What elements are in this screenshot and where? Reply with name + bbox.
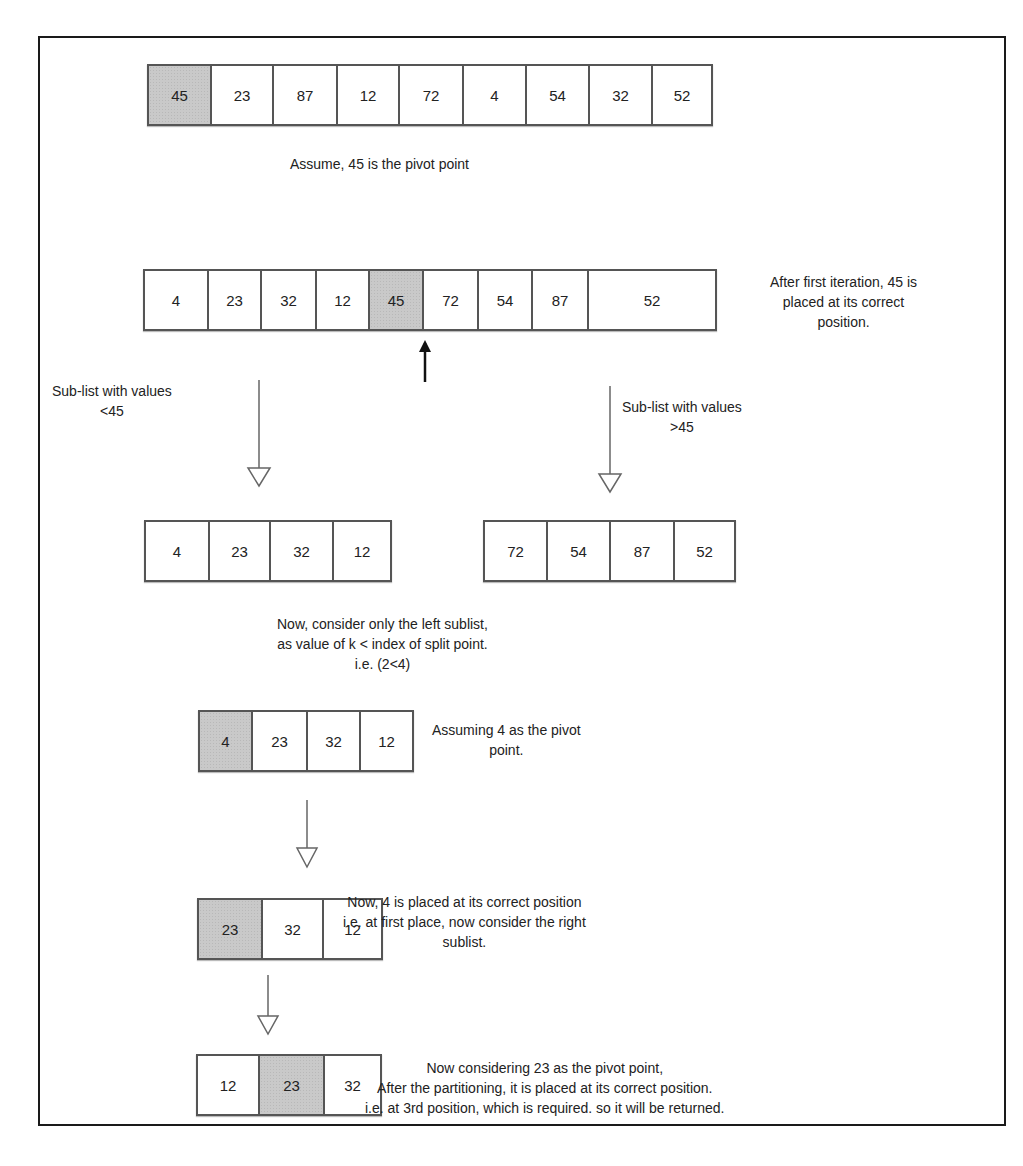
note-line: After first iteration, 45 is bbox=[770, 272, 917, 292]
array-cell: 54 bbox=[548, 522, 611, 580]
note-line: position. bbox=[770, 312, 917, 332]
note-line: Assuming 4 as the pivot bbox=[432, 720, 581, 740]
array-pivot-4: 4 23 32 12 bbox=[198, 710, 414, 772]
array-cell: 72 bbox=[485, 522, 548, 580]
note-after-first-iteration: After first iteration, 45 is placed at i… bbox=[770, 272, 917, 332]
array-cell-pivot: 23 bbox=[199, 900, 263, 958]
note-line: point. bbox=[432, 740, 581, 760]
array-cell: 4 bbox=[464, 66, 527, 124]
note-right-of-4: Now, 4 is placed at its correct position… bbox=[343, 892, 586, 952]
array-cell: 12 bbox=[338, 66, 400, 124]
note-line: Now, 4 is placed at its correct position bbox=[343, 892, 586, 912]
note-initial: Assume, 45 is the pivot point bbox=[290, 154, 469, 174]
note-line: i.e. at 3rd position, which is required.… bbox=[365, 1098, 725, 1118]
array-cell: 52 bbox=[589, 271, 715, 329]
array-cell: 87 bbox=[274, 66, 338, 124]
label-right-sublist: Sub-list with values >45 bbox=[622, 397, 742, 437]
array-cell: 23 bbox=[212, 66, 274, 124]
array-cell: 54 bbox=[527, 66, 590, 124]
array-after-first-iteration: 4 23 32 12 45 72 54 87 52 bbox=[143, 269, 717, 331]
array-cell: 87 bbox=[611, 522, 675, 580]
note-line: Assume, 45 is the pivot point bbox=[290, 154, 469, 174]
array-cell: 12 bbox=[317, 271, 370, 329]
note-line: Now considering 23 as the pivot point, bbox=[365, 1058, 725, 1078]
label-line: <45 bbox=[52, 401, 172, 421]
array-cell: 4 bbox=[146, 522, 210, 580]
array-cell: 32 bbox=[590, 66, 653, 124]
note-line: placed at its correct bbox=[770, 292, 917, 312]
array-cell: 87 bbox=[533, 271, 589, 329]
array-final: 12 23 32 bbox=[196, 1054, 382, 1116]
array-cell-pivot: 4 bbox=[200, 712, 253, 770]
array-cell: 32 bbox=[263, 900, 324, 958]
label-line: >45 bbox=[622, 417, 742, 437]
note-final: Now considering 23 as the pivot point, A… bbox=[365, 1058, 725, 1118]
array-cell: 32 bbox=[308, 712, 361, 770]
array-cell: 32 bbox=[262, 271, 317, 329]
array-cell: 23 bbox=[210, 522, 271, 580]
array-cell-pivot: 23 bbox=[260, 1056, 325, 1114]
array-cell: 23 bbox=[209, 271, 262, 329]
array-cell: 12 bbox=[361, 712, 412, 770]
note-line: After the partitioning, it is placed at … bbox=[365, 1078, 725, 1098]
array-cell-pivot: 45 bbox=[370, 271, 424, 329]
array-cell: 23 bbox=[253, 712, 308, 770]
note-line: sublist. bbox=[343, 932, 586, 952]
array-cell: 32 bbox=[271, 522, 334, 580]
label-left-sublist: Sub-list with values <45 bbox=[52, 381, 172, 421]
array-cell: 12 bbox=[334, 522, 390, 580]
note-line: Now, consider only the left sublist, bbox=[277, 614, 488, 634]
note-line: as value of k < index of split point. bbox=[277, 634, 488, 654]
array-cell-pivot: 45 bbox=[149, 66, 212, 124]
array-cell: 4 bbox=[145, 271, 209, 329]
array-cell: 52 bbox=[675, 522, 734, 580]
array-right-sublist: 72 54 87 52 bbox=[483, 520, 736, 582]
label-line: Sub-list with values bbox=[622, 397, 742, 417]
note-line: i.e. (2<4) bbox=[277, 654, 488, 674]
array-initial: 45 23 87 12 72 4 54 32 52 bbox=[147, 64, 713, 126]
array-left-sublist: 4 23 32 12 bbox=[144, 520, 392, 582]
array-cell: 54 bbox=[479, 271, 533, 329]
note-line: i.e. at first place, now consider the ri… bbox=[343, 912, 586, 932]
label-line: Sub-list with values bbox=[52, 381, 172, 401]
array-cell: 52 bbox=[653, 66, 711, 124]
array-cell: 72 bbox=[424, 271, 479, 329]
array-cell: 72 bbox=[400, 66, 464, 124]
note-pivot-4: Assuming 4 as the pivot point. bbox=[432, 720, 581, 760]
note-consider-left: Now, consider only the left sublist, as … bbox=[277, 614, 488, 674]
array-cell: 12 bbox=[198, 1056, 260, 1114]
